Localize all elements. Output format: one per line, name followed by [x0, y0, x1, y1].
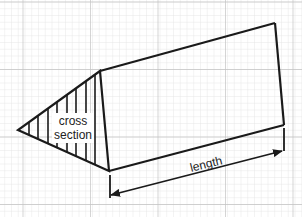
prism-diagram: cross section length: [0, 0, 302, 217]
diagram-canvas: cross section length: [0, 0, 302, 217]
cross-section-label-line2: section: [54, 128, 92, 142]
cross-section-label-line1: cross: [59, 114, 88, 128]
